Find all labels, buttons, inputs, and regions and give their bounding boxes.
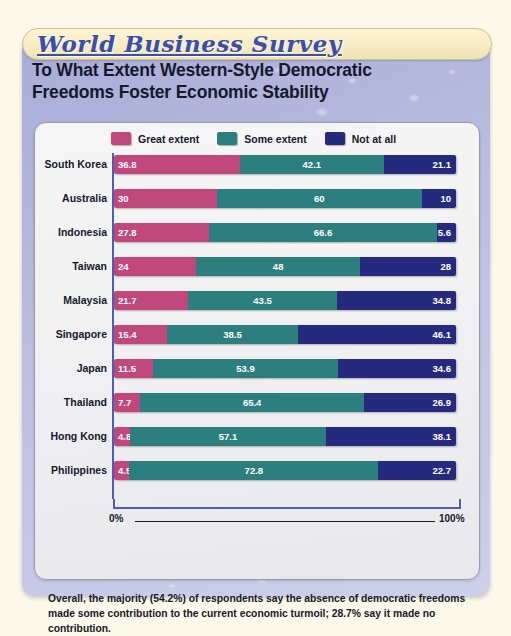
legend-item-1[interactable]: Some extent (217, 132, 306, 145)
bar-value-label: 4.8 (118, 431, 131, 442)
chart-row: Hong Kong4.857.138.1 (35, 425, 479, 447)
bar-segment-notatall[interactable]: 10 (422, 189, 456, 208)
bar-segment-great[interactable]: 21.7 (114, 291, 188, 310)
chart-card: Great extentSome extentNot at all South … (34, 122, 480, 580)
axis-bracket (113, 499, 461, 509)
bar-segment-some[interactable]: 43.5 (188, 291, 337, 310)
chart-row: Thailand7.765.426.9 (35, 391, 479, 413)
bar-value-label: 60 (314, 193, 325, 204)
bar-value-label: 21.1 (432, 159, 451, 170)
page-title: To What Extent Western-Style Democratic … (32, 60, 412, 104)
bar-segment-great[interactable]: 24 (114, 257, 196, 276)
bar-value-label: 65.4 (243, 397, 262, 408)
bar-segment-great[interactable]: 36.8 (114, 155, 240, 174)
stacked-bar[interactable]: 7.765.426.9 (114, 393, 456, 412)
category-label: Australia (35, 187, 107, 209)
bar-segment-some[interactable]: 48 (196, 257, 360, 276)
bar-value-label: 27.8 (118, 227, 137, 238)
bar-value-label: 38.5 (223, 329, 242, 340)
legend-label: Great extent (138, 133, 199, 145)
axis-label-min: 0% (109, 513, 123, 524)
stacked-bar[interactable]: 21.743.534.8 (114, 291, 456, 310)
bar-segment-great[interactable]: 27.8 (114, 223, 209, 242)
chart-footnote: Overall, the majority (54.2%) of respond… (48, 592, 466, 636)
bar-segment-great[interactable]: 11.5 (114, 359, 153, 378)
category-label: Singapore (35, 323, 107, 345)
bar-segment-notatall[interactable]: 28 (360, 257, 456, 276)
bar-segment-some[interactable]: 53.9 (153, 359, 337, 378)
bar-value-label: 34.8 (432, 295, 451, 306)
category-label: Japan (35, 357, 107, 379)
stacked-bar[interactable]: 15.438.546.1 (114, 325, 456, 344)
bar-value-label: 46.1 (432, 329, 451, 340)
bar-value-label: 34.6 (432, 363, 451, 374)
bar-value-label: 38.1 (432, 431, 451, 442)
bar-value-label: 28 (440, 261, 451, 272)
bar-segment-some[interactable]: 42.1 (240, 155, 384, 174)
bar-segment-some[interactable]: 65.4 (140, 393, 364, 412)
chart-row: Malaysia21.743.534.8 (35, 289, 479, 311)
chart-legend: Great extentSome extentNot at all (111, 132, 396, 145)
category-label: South Korea (35, 153, 107, 175)
bar-segment-notatall[interactable]: 26.9 (364, 393, 456, 412)
bar-segment-notatall[interactable]: 38.1 (326, 427, 456, 446)
bar-segment-some[interactable]: 72.8 (129, 461, 378, 480)
stacked-bar[interactable]: 27.866.65.6 (114, 223, 456, 242)
chart-plot-area: South Korea36.842.121.1Australia306010In… (35, 153, 479, 543)
bar-value-label: 72.8 (245, 465, 264, 476)
bar-segment-notatall[interactable]: 34.8 (337, 291, 456, 310)
stacked-bar[interactable]: 244828 (114, 257, 456, 276)
axis-line (135, 521, 435, 522)
stacked-bar[interactable]: 4.572.822.7 (114, 461, 456, 480)
bar-value-label: 5.6 (438, 227, 451, 238)
chart-row: Taiwan244828 (35, 255, 479, 277)
bar-segment-some[interactable]: 66.6 (209, 223, 437, 242)
legend-swatch-icon (111, 132, 131, 145)
bar-value-label: 42.1 (303, 159, 322, 170)
bar-segment-great[interactable]: 4.5 (114, 461, 129, 480)
bar-value-label: 11.5 (118, 363, 136, 374)
bar-segment-notatall[interactable]: 34.6 (338, 359, 456, 378)
bar-segment-notatall[interactable]: 22.7 (378, 461, 456, 480)
category-label: Hong Kong (35, 425, 107, 447)
chart-row: South Korea36.842.121.1 (35, 153, 479, 175)
bar-value-label: 15.4 (118, 329, 137, 340)
category-label: Thailand (35, 391, 107, 413)
bar-value-label: 48 (273, 261, 284, 272)
bar-value-label: 53.9 (236, 363, 255, 374)
bar-segment-great[interactable]: 7.7 (114, 393, 140, 412)
category-label: Malaysia (35, 289, 107, 311)
survey-banner: World Business Survey (22, 28, 492, 60)
bar-segment-notatall[interactable]: 46.1 (298, 325, 456, 344)
bar-value-label: 43.5 (253, 295, 272, 306)
bar-value-label: 21.7 (118, 295, 137, 306)
bar-value-label: 57.1 (219, 431, 238, 442)
bar-value-label: 26.9 (432, 397, 451, 408)
stacked-bar[interactable]: 11.553.934.6 (114, 359, 456, 378)
bar-value-label: 24 (118, 261, 129, 272)
chart-row: Indonesia27.866.65.6 (35, 221, 479, 243)
category-label: Taiwan (35, 255, 107, 277)
legend-swatch-icon (325, 132, 345, 145)
bar-value-label: 36.8 (118, 159, 137, 170)
bar-value-label: 66.6 (314, 227, 333, 238)
axis-label-max: 100% (439, 513, 465, 524)
bar-segment-great[interactable]: 4.8 (114, 427, 130, 446)
banner-title: World Business Survey (37, 30, 342, 57)
bar-segment-great[interactable]: 30 (114, 189, 217, 208)
legend-item-2[interactable]: Not at all (325, 132, 396, 145)
bar-value-label: 10 (440, 193, 451, 204)
stacked-bar[interactable]: 306010 (114, 189, 456, 208)
bar-segment-notatall[interactable]: 21.1 (384, 155, 456, 174)
chart-row: Philippines4.572.822.7 (35, 459, 479, 481)
bar-segment-some[interactable]: 38.5 (167, 325, 299, 344)
stacked-bar[interactable]: 36.842.121.1 (114, 155, 456, 174)
stacked-bar[interactable]: 4.857.138.1 (114, 427, 456, 446)
bar-segment-great[interactable]: 15.4 (114, 325, 167, 344)
bar-segment-some[interactable]: 57.1 (130, 427, 325, 446)
category-label: Philippines (35, 459, 107, 481)
bar-value-label: 30 (118, 193, 129, 204)
bar-segment-notatall[interactable]: 5.6 (437, 223, 456, 242)
legend-item-0[interactable]: Great extent (111, 132, 199, 145)
bar-segment-some[interactable]: 60 (217, 189, 422, 208)
